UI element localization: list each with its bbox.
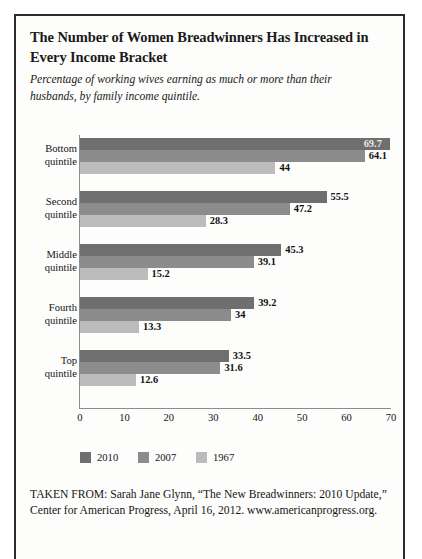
category-label-line: quintile	[0, 262, 77, 275]
bar-value-label: 39.1	[258, 255, 276, 268]
bar-track: 55.5	[80, 191, 391, 203]
bar-track: 12.6	[80, 374, 391, 386]
bar-track: 34	[80, 309, 391, 321]
bar-group: Bottomquintile69.764.144	[16, 138, 407, 174]
legend-swatch-icon	[138, 452, 149, 463]
bar-2010-top-quintile[interactable]	[80, 350, 229, 362]
bar-value-label: 55.5	[331, 190, 349, 203]
legend-swatch-icon	[80, 452, 91, 463]
legend-item-2010[interactable]: 2010	[80, 452, 118, 463]
chart-legend: 201020071967	[16, 452, 407, 472]
bar-1967-fourth-quintile[interactable]	[80, 321, 139, 333]
x-tick-10: 10	[104, 412, 144, 423]
category-label-line: Second	[0, 196, 77, 209]
legend-label: 1967	[213, 452, 234, 463]
category-label-line: Top	[0, 355, 77, 368]
legend-item-2007[interactable]: 2007	[138, 452, 176, 463]
bar-value-label: 47.2	[294, 202, 312, 215]
bar-1967-second-quintile[interactable]	[80, 215, 206, 227]
category-label-line: Middle	[0, 249, 77, 262]
legend-label: 2007	[155, 452, 176, 463]
bar-track: 69.7	[80, 138, 391, 150]
x-tick-50: 50	[282, 412, 322, 423]
category-label-line: quintile	[0, 315, 77, 328]
bar-group: Topquintile33.531.612.6	[16, 350, 407, 386]
x-tick-60: 60	[327, 412, 367, 423]
bar-track: 45.3	[80, 244, 391, 256]
x-axis-tick-labels: 010203040506070	[16, 412, 407, 430]
bar-chart-plot-area: Bottomquintile69.764.144Secondquintile55…	[16, 120, 407, 420]
bar-track: 47.2	[80, 203, 391, 215]
category-label-line: quintile	[0, 209, 77, 222]
x-axis-line	[79, 408, 391, 409]
x-tick-70: 70	[371, 412, 411, 423]
bar-track: 39.1	[80, 256, 391, 268]
bar-track: 31.6	[80, 362, 391, 374]
legend-item-1967[interactable]: 1967	[196, 452, 234, 463]
x-tick-0: 0	[60, 412, 100, 423]
category-label: Middlequintile	[0, 249, 77, 274]
bar-value-label: 12.6	[140, 373, 158, 386]
source-note: TAKEN FROM: Sarah Jane Glynn, “The New B…	[30, 487, 388, 520]
bar-value-label: 64.1	[369, 149, 387, 162]
bar-value-label: 45.3	[285, 243, 303, 256]
bar-group: Secondquintile55.547.228.3	[16, 191, 407, 227]
bar-2010-second-quintile[interactable]	[80, 191, 327, 203]
category-label: Secondquintile	[0, 196, 77, 221]
bar-2010-bottom-quintile[interactable]	[80, 138, 390, 150]
bar-1967-bottom-quintile[interactable]	[80, 162, 275, 174]
category-label: Bottomquintile	[0, 143, 77, 168]
bar-1967-middle-quintile[interactable]	[80, 268, 148, 280]
bar-value-label: 44	[279, 161, 289, 174]
bar-1967-top-quintile[interactable]	[80, 374, 136, 386]
category-label-line: Bottom	[0, 143, 77, 156]
bar-2010-middle-quintile[interactable]	[80, 244, 281, 256]
bar-track: 44	[80, 162, 391, 174]
bar-value-label: 34	[235, 308, 245, 321]
x-tick-30: 30	[193, 412, 233, 423]
figure-title: The Number of Women Breadwinners Has Inc…	[30, 28, 380, 67]
category-label-line: quintile	[0, 156, 77, 169]
legend-label: 2010	[97, 452, 118, 463]
bar-group: Middlequintile45.339.115.2	[16, 244, 407, 280]
bar-value-label: 31.6	[224, 361, 242, 374]
figure-frame: The Number of Women Breadwinners Has Inc…	[14, 14, 405, 559]
bar-group: Fourthquintile39.23413.3	[16, 297, 407, 333]
category-label: Fourthquintile	[0, 302, 77, 327]
category-label-line: Fourth	[0, 302, 77, 315]
figure-subtitle: Percentage of working wives earning as m…	[30, 72, 360, 106]
bar-2010-fourth-quintile[interactable]	[80, 297, 254, 309]
bar-value-label: 15.2	[152, 267, 170, 280]
bar-2007-second-quintile[interactable]	[80, 203, 290, 215]
bar-track: 64.1	[80, 150, 391, 162]
legend-swatch-icon	[196, 452, 207, 463]
bar-track: 28.3	[80, 215, 391, 227]
bar-value-label: 39.2	[258, 296, 276, 309]
category-label-line: quintile	[0, 368, 77, 381]
category-label: Topquintile	[0, 355, 77, 380]
bar-value-label: 13.3	[143, 320, 161, 333]
bar-track: 15.2	[80, 268, 391, 280]
bar-2007-bottom-quintile[interactable]	[80, 150, 365, 162]
x-tick-20: 20	[149, 412, 189, 423]
bar-value-label: 28.3	[210, 214, 228, 227]
x-tick-40: 40	[238, 412, 278, 423]
bar-track: 13.3	[80, 321, 391, 333]
